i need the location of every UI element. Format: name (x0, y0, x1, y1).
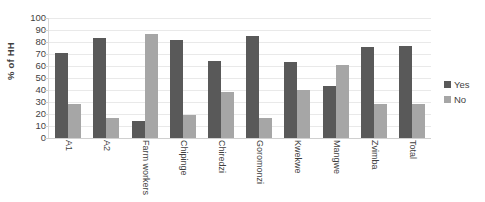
y-axis-tick-label: 30 (19, 97, 46, 107)
y-axis-tick-label: 80 (19, 37, 46, 47)
bar-no (106, 118, 119, 138)
bar-no (145, 34, 158, 138)
bar-group (240, 18, 278, 138)
bar-group (87, 18, 125, 138)
bar-yes (361, 47, 374, 138)
x-axis-label-cell: A1 (49, 140, 87, 202)
x-axis-label: Total (407, 140, 416, 159)
y-axis-tick-label: 50 (19, 73, 46, 83)
bar-yes (208, 61, 221, 138)
bar-group (393, 18, 431, 138)
bar-yes (93, 38, 106, 138)
x-axis-label: Farm workers (140, 140, 149, 198)
bar-no (183, 115, 196, 138)
x-axis-label-cell: Chiredzi (202, 140, 240, 202)
x-axis-label: Zvimba (369, 140, 378, 170)
bar-yes (55, 53, 68, 138)
bars-layer (49, 18, 431, 138)
x-axis-label: Kwekwe (293, 140, 302, 174)
bar-no (297, 90, 310, 138)
x-axis-label: Goromonzi (254, 140, 263, 184)
bar-no (336, 65, 349, 138)
bar-yes (246, 36, 259, 138)
y-axis-tick-label: 90 (19, 25, 46, 35)
bar-no (259, 118, 272, 138)
bar-yes (399, 46, 412, 138)
x-axis-label-cell: Chipinge (164, 140, 202, 202)
bar-yes (132, 121, 145, 138)
x-axis-label: Mangwe (331, 140, 340, 174)
x-axis-label-cell: Goromonzi (240, 140, 278, 202)
bar-group (316, 18, 354, 138)
bar-group (164, 18, 202, 138)
legend-entry[interactable]: No (444, 95, 485, 105)
legend-entry[interactable]: Yes (444, 80, 485, 90)
y-axis-tick-label: 20 (19, 109, 46, 119)
plot-area (49, 18, 431, 138)
x-axis-label-cell: A2 (87, 140, 125, 202)
y-axis-title: % of HH (5, 26, 19, 96)
y-axis-tick-label: 70 (19, 49, 46, 59)
bar-yes (323, 86, 336, 138)
legend-swatch-icon (444, 96, 451, 103)
x-axis-label-cell: Zvimba (355, 140, 393, 202)
legend: YesNo (444, 80, 485, 109)
bar-no (221, 92, 234, 138)
legend-label: Yes (454, 80, 470, 90)
x-axis-label-cell: Mangwe (316, 140, 354, 202)
legend-swatch-icon (444, 81, 451, 88)
bar-group (202, 18, 240, 138)
x-axis-label-cell: Kwekwe (278, 140, 316, 202)
y-axis-tick-label: 60 (19, 61, 46, 71)
y-axis-tick-label: 10 (19, 121, 46, 131)
y-axis-tick-label: 0 (19, 133, 46, 143)
x-axis-label: Chipinge (178, 140, 187, 176)
x-axis-label: Chiredzi (216, 140, 225, 173)
bar-yes (170, 40, 183, 138)
bar-no (412, 104, 425, 138)
bar-no (374, 104, 387, 138)
bar-group (355, 18, 393, 138)
legend-label: No (454, 95, 466, 105)
y-axis-tick-label: 40 (19, 85, 46, 95)
bar-group (49, 18, 87, 138)
x-axis-label: A2 (102, 140, 111, 151)
bar-group (278, 18, 316, 138)
y-axis-tick-labels: 1009080706050403020100 (19, 12, 46, 138)
x-axis-label-cell: Farm workers (125, 140, 163, 202)
x-axis-label: A1 (63, 140, 72, 151)
y-axis-tick-label: 100 (19, 13, 46, 23)
bar-yes (284, 62, 297, 138)
x-axis-label-cell: Total (393, 140, 431, 202)
bar-group (125, 18, 163, 138)
x-axis-category-labels: A1A2Farm workersChipingeChiredziGoromonz… (49, 140, 431, 202)
axis-baseline (49, 138, 431, 139)
bar-no (68, 104, 81, 138)
bar-chart: % of HH 1009080706050403020100 A1A2Farm … (0, 0, 485, 202)
